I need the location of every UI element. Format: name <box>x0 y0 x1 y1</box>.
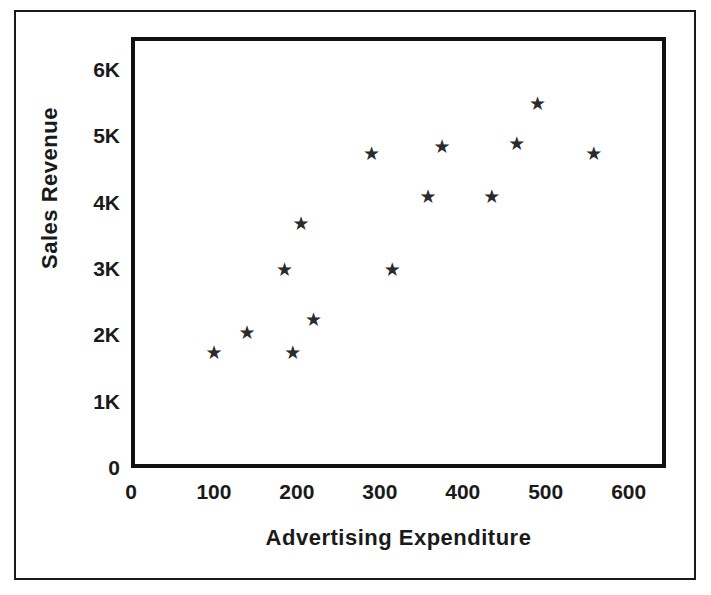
x-axis-tick-label: 500 <box>528 480 563 504</box>
plot-data-area: ★★★★★★★★★★★★★★ <box>131 37 666 468</box>
data-point-marker: ★ <box>284 342 301 361</box>
x-axis-tick-label: 100 <box>196 480 231 504</box>
y-axis-tick-label: 4K <box>93 191 120 215</box>
x-axis-tick-label: 300 <box>362 480 397 504</box>
x-axis-tick-label: 200 <box>279 480 314 504</box>
data-point-marker: ★ <box>434 137 451 156</box>
x-axis-tick-label: 0 <box>125 480 137 504</box>
y-axis-tick-label: 6K <box>93 58 120 82</box>
y-axis-tick-label: 2K <box>93 323 120 347</box>
data-point-marker: ★ <box>384 260 401 279</box>
y-axis-tick-label: 1K <box>93 390 120 414</box>
scatter-plot-figure: ★★★★★★★★★★★★★★ 01K2K3K4K5K6K 01002003004… <box>0 0 711 595</box>
data-point-marker: ★ <box>529 94 546 113</box>
data-point-marker: ★ <box>483 187 500 206</box>
x-axis-tick-label: 600 <box>611 480 646 504</box>
x-axis-tick-label: 400 <box>445 480 480 504</box>
y-axis-tick-label: 0 <box>108 456 120 480</box>
data-point-marker: ★ <box>205 342 222 361</box>
data-point-marker: ★ <box>585 144 602 163</box>
data-point-marker: ★ <box>363 144 380 163</box>
x-axis-title: Advertising Expenditure <box>131 525 666 551</box>
y-axis-title: Sales Revenue <box>37 78 63 298</box>
data-point-marker: ★ <box>305 309 322 328</box>
data-point-marker: ★ <box>239 323 256 342</box>
y-axis-tick-label: 3K <box>93 257 120 281</box>
data-point-marker: ★ <box>419 187 436 206</box>
x-axis-tick-labels: 0100200300400500600 <box>0 480 711 510</box>
data-point-marker: ★ <box>508 134 525 153</box>
y-axis-tick-label: 5K <box>93 124 120 148</box>
data-point-marker: ★ <box>276 260 293 279</box>
data-point-marker: ★ <box>293 213 310 232</box>
